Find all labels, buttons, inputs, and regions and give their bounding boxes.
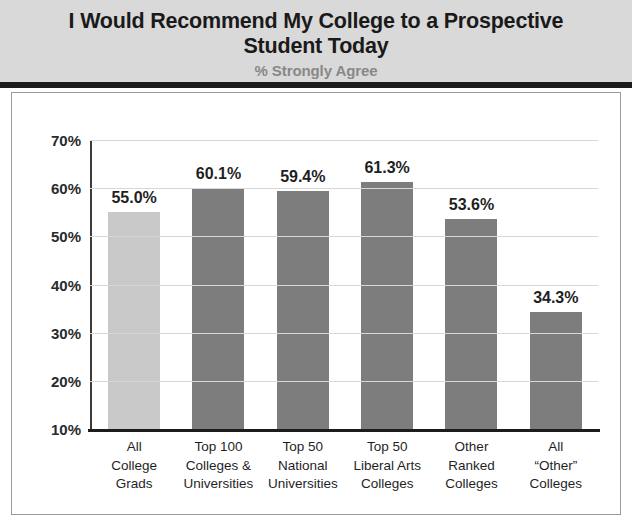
category-label: Top 50NationalUniversities [261, 438, 345, 494]
category-label-line: All [514, 438, 598, 457]
bar-value-label: 55.0% [111, 189, 156, 207]
category-label-line: Colleges [514, 475, 598, 494]
gridline [90, 333, 598, 334]
category-label-line: Top 50 [345, 438, 429, 457]
category-label: Top 50Liberal ArtsColleges [345, 438, 429, 494]
category-label-line: Colleges [429, 475, 513, 494]
plot-area: 55.0%60.1%59.4%61.3%53.6%34.3% 10%20%30%… [90, 140, 598, 429]
gridline [90, 140, 598, 141]
chart-header: I Would Recommend My College to a Prospe… [0, 0, 632, 86]
y-axis-tick-label: 40% [51, 276, 81, 293]
chart-subtitle: % Strongly Agree [0, 59, 632, 79]
bar[interactable] [108, 212, 160, 429]
category-label-line: National [261, 457, 345, 476]
bar-value-label: 34.3% [533, 289, 578, 307]
bar-value-label: 59.4% [280, 168, 325, 186]
bar[interactable] [361, 182, 413, 429]
bar[interactable] [277, 191, 329, 429]
y-axis-tick-label: 70% [51, 132, 81, 149]
gridline [90, 188, 598, 189]
category-label: All“Other”Colleges [514, 438, 598, 494]
chart-title-line-1: I Would Recommend My College to a [69, 9, 438, 33]
y-axis-tick-label: 10% [51, 421, 81, 438]
bar[interactable] [192, 188, 244, 429]
category-label-line: Other [429, 438, 513, 457]
chart-card: 55.0%60.1%59.4%61.3%53.6%34.3% 10%20%30%… [11, 92, 621, 515]
x-axis-line [88, 429, 600, 432]
gridline [90, 236, 598, 237]
header-divider-rule [0, 82, 632, 88]
category-label-line: All [92, 438, 176, 457]
gridline [90, 381, 598, 382]
category-label: Top 100Colleges &Universities [176, 438, 260, 494]
category-label: OtherRankedColleges [429, 438, 513, 494]
category-label-line: Universities [176, 475, 260, 494]
category-label-line: College [92, 457, 176, 476]
gridline [90, 285, 598, 286]
category-label-line: Liberal Arts [345, 457, 429, 476]
y-axis-tick-label: 30% [51, 324, 81, 341]
category-label-line: Top 100 [176, 438, 260, 457]
y-axis-tick-label: 20% [51, 372, 81, 389]
bar-value-label: 60.1% [196, 165, 241, 183]
chart-figure: I Would Recommend My College to a Prospe… [0, 0, 632, 527]
category-label: AllCollegeGrads [92, 438, 176, 494]
category-label-line: Ranked [429, 457, 513, 476]
bar-value-label: 61.3% [364, 159, 409, 177]
category-label-line: Top 50 [261, 438, 345, 457]
category-label-line: “Other” [514, 457, 598, 476]
category-label-line: Universities [261, 475, 345, 494]
y-axis-tick-label: 60% [51, 180, 81, 197]
category-label-line: Colleges [345, 475, 429, 494]
category-label-line: Colleges & [176, 457, 260, 476]
y-axis-tick-label: 50% [51, 228, 81, 245]
chart-title: I Would Recommend My College to a Prospe… [0, 0, 632, 59]
category-label-line: Grads [92, 475, 176, 494]
bar[interactable] [530, 312, 582, 429]
bar-value-label: 53.6% [449, 196, 494, 214]
bar[interactable] [445, 219, 497, 429]
category-label-row: AllCollegeGradsTop 100Colleges &Universi… [92, 438, 598, 508]
